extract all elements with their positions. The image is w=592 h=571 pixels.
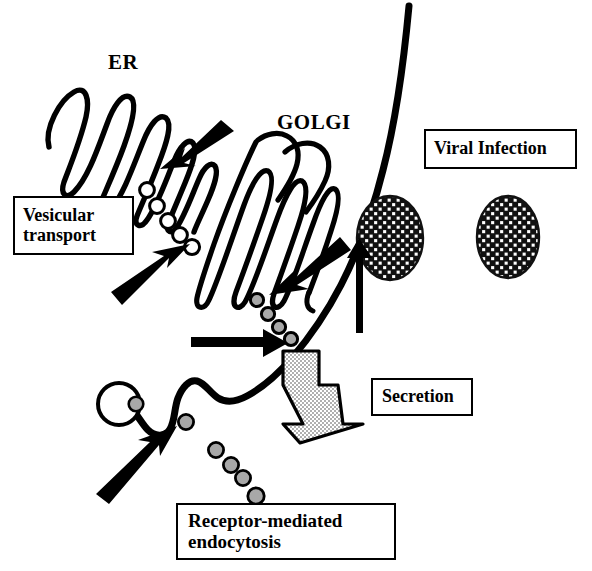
arrow-endocytosis xyxy=(96,426,177,504)
trafficking-diagram-svg xyxy=(0,0,592,571)
endocytic-receptor-dots xyxy=(178,414,264,504)
vesicular-transport-label-box: Vesicular transport xyxy=(13,196,134,255)
vesicular-transport-line2: transport xyxy=(23,226,96,245)
arrow-golgi-exit xyxy=(191,329,288,357)
golgi-label: GOLGI xyxy=(277,110,351,135)
arrow-viral-entry xyxy=(347,238,372,333)
viral-particle-free xyxy=(477,196,539,278)
secretion-label-box: Secretion xyxy=(371,378,473,416)
er-label: ER xyxy=(108,50,138,75)
viral-infection-label-box: Viral Infection xyxy=(424,129,577,169)
golgi-apparatus xyxy=(197,133,339,311)
viral-infection-text: Viral Infection xyxy=(434,139,547,158)
endocytosis-line2: endocytosis xyxy=(188,532,281,553)
endocytosis-line1: Receptor-mediated xyxy=(188,511,342,532)
vesicular-transport-line1: Vesicular xyxy=(23,206,94,225)
block-arrow-secretion xyxy=(283,351,363,443)
free-endocytic-vesicle xyxy=(98,383,143,425)
secretion-text: Secretion xyxy=(382,387,454,406)
receptor-mediated-endocytosis-label-box: Receptor-mediated endocytosis xyxy=(176,503,396,560)
diagram-canvas: ER GOLGI Vesicular transport Viral Infec… xyxy=(0,0,592,571)
viral-particle-membrane xyxy=(357,196,423,280)
